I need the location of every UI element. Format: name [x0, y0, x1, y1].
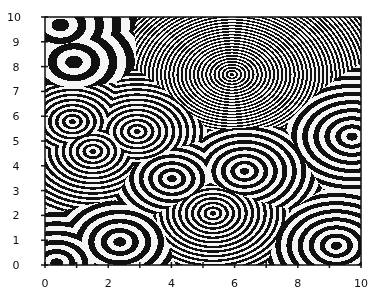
y-tick-label: 10: [7, 11, 21, 24]
y-tick-label: 7: [13, 85, 20, 98]
x-axis: 0246810: [42, 262, 369, 290]
contour-chart: 0246810 012345678910: [0, 0, 377, 301]
x-tick-label: 8: [294, 277, 301, 290]
y-tick-label: 8: [13, 61, 20, 74]
y-tick-label: 6: [13, 110, 20, 123]
y-tick-label: 9: [13, 36, 20, 49]
y-tick-label: 3: [13, 185, 20, 198]
x-tick-label: 0: [42, 277, 49, 290]
y-tick-label: 2: [13, 209, 20, 222]
plot-area: [45, 17, 361, 265]
x-tick-label: 10: [354, 277, 368, 290]
x-tick-label: 6: [231, 277, 238, 290]
y-tick-label: 1: [13, 234, 20, 247]
y-tick-label: 0: [13, 259, 20, 272]
y-tick-label: 4: [13, 160, 20, 173]
x-tick-label: 4: [168, 277, 175, 290]
x-tick-label: 2: [105, 277, 112, 290]
ring-pattern-canvas: [45, 17, 361, 265]
y-tick-label: 5: [13, 135, 20, 148]
y-axis: 012345678910: [7, 11, 48, 272]
